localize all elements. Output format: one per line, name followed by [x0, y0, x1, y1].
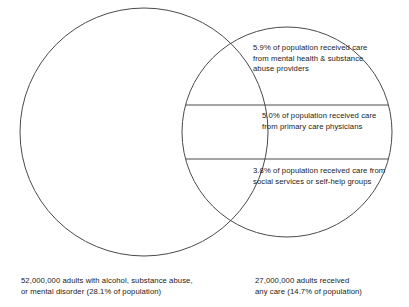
region-label-social-services: 3.8% of population received care from so…: [253, 166, 393, 187]
region-label-mental-health: 5.9% of population received care from me…: [253, 43, 385, 75]
caption-right: 27,000,000 adults received any care (14.…: [255, 275, 405, 297]
region-label-primary-care: 5.0% of population received care from pr…: [262, 111, 394, 132]
caption-left-line-1: 52,000,000 adults with alcohol, substanc…: [21, 275, 251, 286]
caption-right-line-1: 27,000,000 adults received: [255, 275, 405, 286]
caption-right-line-2: any care (14.7% of population): [255, 286, 405, 297]
adults-with-disorder-circle: [20, 8, 268, 256]
venn-diagram: 5.9% of population received care from me…: [0, 0, 409, 307]
caption-left-line-2: or mental disorder (28.1% of population): [21, 286, 251, 297]
caption-left: 52,000,000 adults with alcohol, substanc…: [21, 275, 251, 297]
